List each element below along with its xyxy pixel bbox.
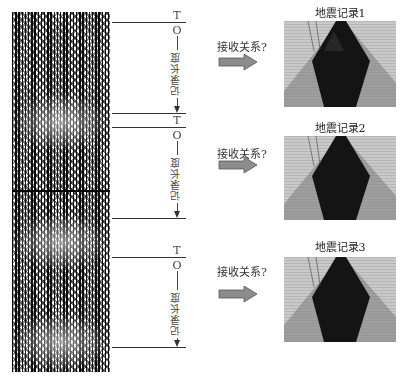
segment-1-t-label: T <box>172 10 182 21</box>
seismic-record-2 <box>284 136 396 220</box>
continuous-seismic-section <box>12 12 110 372</box>
segment-2-t-label: T <box>172 115 182 126</box>
segment-2-down-arrow-icon <box>174 211 180 218</box>
event-highlight <box>12 212 110 272</box>
segment-2-o-label: O <box>172 130 182 141</box>
segment-3-start-line <box>112 257 186 258</box>
right-arrow-icon <box>218 54 258 70</box>
segment-2-end-line <box>112 218 186 219</box>
right-arrow-icon <box>218 286 258 302</box>
segment-2-record-length-label: 记录长度 <box>168 155 183 203</box>
seismic-record-3 <box>284 257 396 342</box>
relation-1-label: 接收关系? <box>217 38 267 54</box>
record-1-title: 地震记录1 <box>284 4 396 20</box>
section-seam <box>12 190 110 192</box>
right-arrow-icon <box>218 157 258 173</box>
event-highlight <box>12 92 110 152</box>
segment-3-end-line <box>112 347 186 348</box>
segment-3-record-length-label: 记录长度 <box>168 290 183 338</box>
record-3-title: 地震记录3 <box>284 238 396 254</box>
shot-gather-image <box>284 136 396 220</box>
segment-1-down-arrow-icon <box>174 106 180 113</box>
segment-2-start-line <box>112 127 186 128</box>
relation-3-label: 接收关系? <box>217 263 267 279</box>
event-highlight <box>12 312 110 372</box>
segment-1-o-label: O <box>172 25 182 36</box>
seismic-record-1 <box>284 21 396 107</box>
segment-1-start-line <box>112 22 186 23</box>
record-2-title: 地震记录2 <box>284 119 396 135</box>
segment-1-record-length-label: 记录长度 <box>168 50 183 98</box>
segment-3-t-label: T <box>172 245 182 256</box>
shot-gather-image <box>284 257 396 342</box>
segment-3-down-arrow-icon <box>174 340 180 347</box>
shot-gather-image <box>284 21 396 107</box>
segment-3-o-label: O <box>172 260 182 271</box>
